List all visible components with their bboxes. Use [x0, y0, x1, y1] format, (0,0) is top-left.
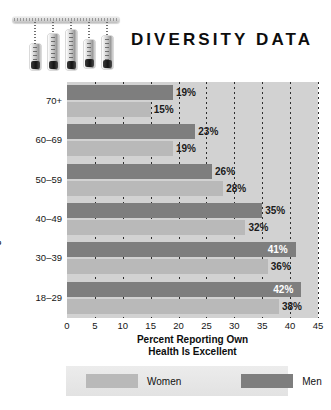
bar-group: 35%32%: [67, 203, 318, 235]
thermometer-icon: [66, 22, 77, 70]
x-axis-tick: 45: [313, 320, 324, 331]
thermometer-scale: [105, 39, 109, 61]
y-axis-category-label: 60–69: [2, 134, 62, 145]
thermometer-string: [52, 22, 54, 34]
plot-area: 19%15%23%19%26%28%35%32%41%36%42%38%: [67, 82, 318, 318]
bar-value-label: 35%: [265, 203, 285, 218]
bar-men: [67, 124, 195, 139]
thermometer-tube: [84, 40, 95, 68]
thermometer-string: [106, 22, 108, 36]
bar-women: [67, 299, 279, 314]
bar-chart: Age 19%15%23%19%26%28%35%32%41%36%42%38%…: [0, 82, 331, 322]
thermometer-bulb: [49, 61, 58, 69]
thermometer-scale: [51, 37, 55, 62]
x-axis-tick: 5: [92, 320, 97, 331]
bar-value-label: 19%: [176, 85, 196, 100]
bar-men: [67, 203, 262, 218]
bar-value-label: 23%: [198, 124, 218, 139]
legend-swatch-women: [86, 374, 138, 388]
bar-value-label: 26%: [215, 164, 235, 179]
x-axis-tick: 40: [285, 320, 296, 331]
bar-value-label: 38%: [282, 299, 302, 314]
bar-women: [67, 259, 268, 274]
thermometer-bulb: [103, 60, 112, 68]
x-axis-label: Percent Reporting Own Health Is Excellen…: [67, 334, 318, 358]
thermometer-icon: [48, 22, 59, 70]
x-axis-label-line2: Health Is Excellent: [148, 346, 236, 357]
y-axis-category-label: 40–49: [2, 213, 62, 224]
bar-value-label: 15%: [154, 102, 174, 117]
x-axis-tick: 10: [117, 320, 128, 331]
bar-group: 42%38%: [67, 282, 318, 314]
thermometer-icon: [30, 22, 41, 70]
y-axis-category-label: 50–59: [2, 174, 62, 185]
thermometer-scale: [87, 43, 91, 60]
legend-item-women: Women: [66, 374, 181, 388]
x-axis-tick: 35: [257, 320, 268, 331]
bar-women: [67, 181, 223, 196]
thermometer-tube: [66, 30, 77, 70]
chart-legend: Women Men: [66, 366, 288, 396]
bar-value-label: 28%: [226, 181, 246, 196]
thermometer-scale: [33, 47, 37, 62]
y-axis-label: Age: [0, 235, 1, 252]
y-axis-category-label: 18–29: [2, 292, 62, 303]
thermometer-bulb: [31, 61, 40, 69]
thermometer-string: [88, 22, 90, 40]
bar-value-label: 32%: [248, 220, 268, 235]
x-axis-label-line1: Percent Reporting Own: [137, 334, 248, 345]
bar-women: [67, 141, 173, 156]
bar-men: [67, 85, 173, 100]
thermometer-decoration: [12, 16, 120, 74]
bar-men: [67, 242, 296, 257]
bar-group: 19%15%: [67, 85, 318, 117]
x-axis-tick: 20: [173, 320, 184, 331]
x-axis-tick: 15: [145, 320, 156, 331]
thermometer-string: [34, 22, 36, 44]
bar-women: [67, 102, 151, 117]
thermometer-icon: [84, 22, 95, 68]
bar-women: [67, 220, 245, 235]
legend-label-women: Women: [147, 376, 181, 387]
thermometer-bulb: [67, 61, 76, 69]
bar-value-label: 41%: [268, 242, 288, 257]
legend-swatch-men: [241, 374, 293, 388]
bar-value-label: 19%: [176, 141, 196, 156]
thermometer-icon: [102, 22, 113, 69]
thermometer-tube: [30, 44, 41, 70]
legend-label-men: Men: [302, 376, 321, 387]
bar-men: [67, 164, 212, 179]
thermometer-tube: [48, 34, 59, 70]
thermometer-scale: [69, 33, 73, 62]
bar-group: 41%36%: [67, 242, 318, 274]
gridline: [318, 82, 319, 318]
bar-value-label: 36%: [271, 259, 291, 274]
page-title: DIVERSITY DATA: [122, 30, 322, 50]
x-axis-tick: 0: [64, 320, 69, 331]
bar-group: 23%19%: [67, 124, 318, 156]
legend-item-men: Men: [181, 374, 321, 388]
x-axis-tick: 25: [201, 320, 212, 331]
bar-value-label: 42%: [273, 282, 293, 297]
bar-group: 26%28%: [67, 164, 318, 196]
bar-men: [67, 282, 301, 297]
thermometer-bulb: [85, 59, 94, 67]
thermometer-string: [70, 22, 72, 30]
ruler-ticks: [14, 18, 118, 21]
x-axis-tick: 30: [229, 320, 240, 331]
y-axis-category-label: 70+: [2, 95, 62, 106]
y-axis-category-label: 30–39: [2, 252, 62, 263]
thermometer-tube: [102, 36, 113, 69]
